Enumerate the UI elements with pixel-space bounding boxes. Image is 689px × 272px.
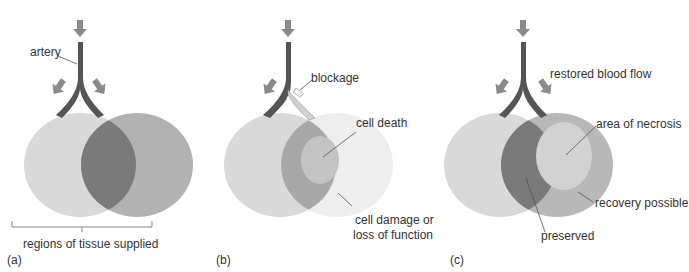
necrosis-label: area of necrosis <box>596 117 681 131</box>
panel-b-caption: (b) <box>216 253 231 267</box>
flow-arrow-icon <box>259 76 280 98</box>
cell-damage-label-1: cell damage or <box>355 213 434 227</box>
flow-arrow-icon <box>491 76 512 98</box>
flow-arrow-icon <box>89 76 110 98</box>
artery-leader-line <box>58 56 77 64</box>
regions-label: regions of tissue supplied <box>23 237 158 251</box>
artery-label: artery <box>30 45 61 59</box>
flow-arrow-icon <box>48 76 69 98</box>
cell-death-region <box>301 136 339 184</box>
preserved-label: preserved <box>541 229 594 243</box>
panel-a-caption: (a) <box>7 253 22 267</box>
flow-arrow-icon <box>281 20 295 37</box>
panel-c-caption: (c) <box>450 253 464 267</box>
restored-blood-flow-label: restored blood flow <box>550 67 651 81</box>
blockage-label: blockage <box>311 71 359 85</box>
artery-vessel <box>263 42 291 118</box>
necrosis-region <box>536 122 592 190</box>
regions-bracket <box>12 221 152 232</box>
panel-c <box>444 20 613 232</box>
flow-arrow-icon <box>516 20 530 37</box>
flow-arrow-icon <box>73 20 87 37</box>
blockage-plug <box>293 88 303 97</box>
cell-death-label: cell death <box>356 116 407 130</box>
cell-damage-label-2: loss of function <box>353 228 433 242</box>
recovery-label: recovery possible <box>595 196 688 210</box>
